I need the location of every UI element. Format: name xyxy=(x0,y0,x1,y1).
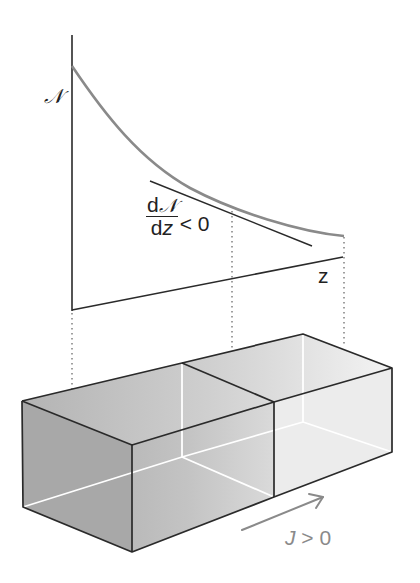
z-axis-label: z xyxy=(318,264,329,288)
numerator-d: d xyxy=(147,193,159,216)
derivative-relation: < 0 xyxy=(180,212,210,236)
concentration-graph xyxy=(72,35,344,311)
diffusion-diagram xyxy=(0,0,420,583)
y-axis-label: 𝒩 xyxy=(44,84,63,108)
derivative-denominator: dz xyxy=(151,217,173,238)
denominator-d: d xyxy=(151,216,163,239)
flux-relation: > 0 xyxy=(296,526,332,549)
numerator-var: 𝒩 xyxy=(159,194,177,216)
material-block xyxy=(22,334,392,552)
derivative-numerator: d𝒩 xyxy=(146,195,178,217)
derivative-fraction: d𝒩 dz xyxy=(146,195,178,238)
flux-var: J xyxy=(285,526,296,549)
flux-label: J > 0 xyxy=(285,526,331,550)
denominator-var: z xyxy=(162,216,173,239)
derivative-annotation: d𝒩 dz < 0 xyxy=(146,195,209,238)
z-axis xyxy=(72,257,343,310)
